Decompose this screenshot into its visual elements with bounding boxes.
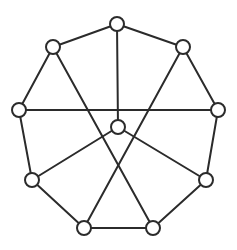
graph-node-center: [111, 120, 125, 134]
graph-node-bottom-left: [77, 221, 91, 235]
graph-edge-ring-5: [19, 110, 32, 180]
graph-canvas: [0, 0, 237, 250]
graph-edge-chord-3: [84, 47, 183, 228]
graph-edge-spoke-1: [117, 24, 118, 127]
graph-edge-ring-8: [153, 180, 206, 228]
graph-node-lower-right: [199, 173, 213, 187]
graph-edge-ring-3: [19, 47, 53, 110]
node-layer: [12, 17, 225, 235]
graph-node-bottom-right: [146, 221, 160, 235]
graph-edge-ring-1: [53, 24, 117, 47]
graph-node-top: [110, 17, 124, 31]
graph-edge-ring-6: [206, 110, 218, 180]
graph-edge-ring-2: [117, 24, 183, 47]
graph-node-upper-left: [46, 40, 60, 54]
graph-node-upper-right: [176, 40, 190, 54]
graph-figure: [0, 0, 237, 250]
graph-edge-chord-2: [53, 47, 153, 228]
graph-edge-ring-7: [32, 180, 84, 228]
graph-edge-spoke-2: [32, 127, 118, 180]
graph-node-right: [211, 103, 225, 117]
graph-edge-ring-4: [183, 47, 218, 110]
graph-node-lower-left: [25, 173, 39, 187]
graph-node-left: [12, 103, 26, 117]
graph-edge-spoke-3: [118, 127, 206, 180]
